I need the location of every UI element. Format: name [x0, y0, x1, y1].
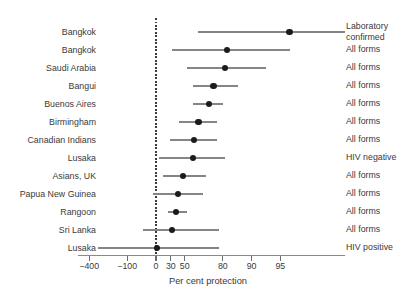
- x-axis-tick-label: −100: [117, 261, 137, 271]
- confidence-interval-line: [198, 31, 345, 33]
- confidence-interval-line: [143, 229, 219, 231]
- case-type-label: All forms: [346, 62, 408, 73]
- zero-reference-line: [155, 18, 156, 256]
- case-type-label: All forms: [346, 44, 408, 55]
- point-estimate-dot: [195, 119, 202, 126]
- forest-plot-figure: BangkokLaboratory confirmedBangkokAll fo…: [0, 0, 413, 300]
- case-type-label: HIV negative: [346, 152, 408, 163]
- x-axis-tick-label: 95: [275, 261, 285, 271]
- study-label: Lusaka: [0, 243, 96, 253]
- study-label: Rangoon: [0, 207, 96, 217]
- case-type-label: All forms: [346, 98, 408, 109]
- x-axis-tick-label: 90: [247, 261, 257, 271]
- case-type-label: All forms: [346, 170, 408, 181]
- x-axis-line: [78, 255, 345, 256]
- x-axis-title: Per cent protection: [78, 276, 338, 286]
- point-estimate-dot: [210, 83, 217, 90]
- study-label: Bangkok: [0, 27, 96, 37]
- study-label: Sri Lanka: [0, 225, 96, 235]
- x-axis-tick-label: 30: [166, 261, 176, 271]
- case-type-label: All forms: [346, 134, 408, 145]
- point-estimate-dot: [222, 65, 229, 72]
- confidence-interval-line: [172, 49, 290, 51]
- study-label: Lusaka: [0, 153, 96, 163]
- point-estimate-dot: [224, 47, 231, 54]
- study-label: Birmingham: [0, 117, 96, 127]
- case-type-label: All forms: [346, 224, 408, 235]
- point-estimate-dot: [190, 155, 197, 162]
- case-type-label: All forms: [346, 188, 408, 199]
- study-label: Asians, UK: [0, 171, 96, 181]
- case-type-label: All forms: [346, 116, 408, 127]
- study-label: Papua New Guinea: [0, 189, 96, 199]
- point-estimate-dot: [169, 227, 176, 234]
- x-axis-tick-label: 0: [154, 261, 159, 271]
- case-type-label: All forms: [346, 206, 408, 217]
- point-estimate-dot: [175, 191, 182, 198]
- point-estimate-dot: [286, 29, 293, 36]
- study-label: Bangkok: [0, 45, 96, 55]
- x-axis-tick-label: 80: [218, 261, 228, 271]
- point-estimate-dot: [180, 173, 187, 180]
- study-label: Bangui: [0, 81, 96, 91]
- point-estimate-dot: [154, 245, 161, 252]
- x-axis-tick-label: 50: [180, 261, 190, 271]
- case-type-label: HIV positive: [346, 242, 408, 253]
- point-estimate-dot: [191, 137, 198, 144]
- study-label: Canadian Indians: [0, 135, 96, 145]
- study-label: Saudi Arabia: [0, 63, 96, 73]
- point-estimate-dot: [173, 209, 180, 216]
- x-axis-tick-label: −400: [79, 261, 99, 271]
- case-type-label: Laboratory confirmed: [346, 21, 408, 44]
- study-label: Buenos Aires: [0, 99, 96, 109]
- point-estimate-dot: [206, 101, 213, 108]
- case-type-label: All forms: [346, 80, 408, 91]
